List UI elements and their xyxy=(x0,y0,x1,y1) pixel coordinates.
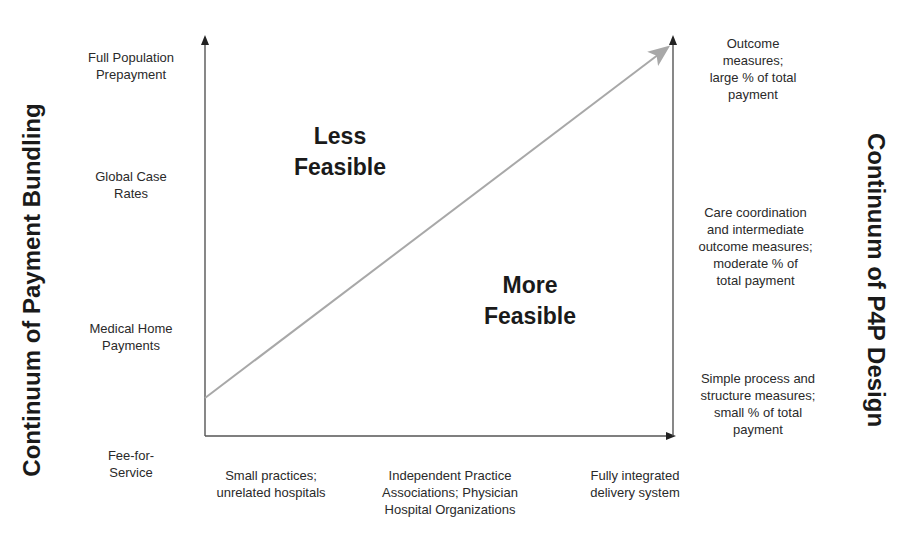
region-less-feasible: Less Feasible xyxy=(270,121,410,183)
right-level-outcome-measures: Outcome measures; large % of total payme… xyxy=(688,35,818,103)
left-level-full-population-prepayment: Full Population Prepayment xyxy=(76,49,186,83)
bottom-level-fully-integrated: Fully integrated delivery system xyxy=(570,467,700,501)
left-axis-title: Continuum of Payment Bundling xyxy=(18,80,46,500)
left-level-global-case-rates: Global Case Rates xyxy=(76,168,186,202)
left-level-medical-home-payments: Medical Home Payments xyxy=(76,320,186,354)
bottom-level-small-practices: Small practices; unrelated hospitals xyxy=(196,467,346,501)
right-level-care-coordination: Care coordination and intermediate outco… xyxy=(688,204,823,289)
left-level-fee-for-service: Fee-for- Service xyxy=(76,447,186,481)
right-level-simple-process: Simple process and structure measures; s… xyxy=(688,370,828,438)
bottom-level-ipa-pho: Independent Practice Associations; Physi… xyxy=(370,467,530,518)
feasibility-diagonal-arrow xyxy=(205,48,667,398)
region-more-feasible: More Feasible xyxy=(455,270,605,332)
right-axis-title: Continuum of P4P Design xyxy=(862,100,890,460)
